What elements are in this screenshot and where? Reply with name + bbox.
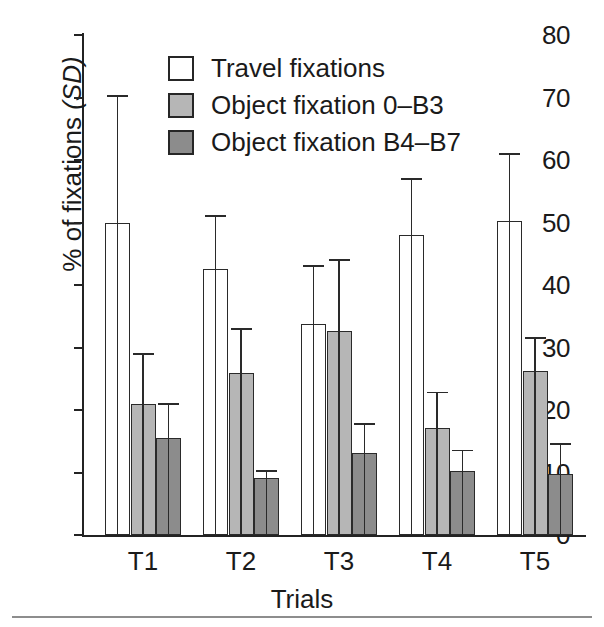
legend-item-object-fixation-b4-b7: Object fixation B4–B7 [168,125,461,159]
error-cap-t2-series2 [231,328,252,330]
error-cap-t2-series3 [256,470,277,472]
error-bar-t5-series3 [560,444,562,535]
y-axis-tick-label: 40 [542,272,570,298]
error-bar-t4-series3 [462,451,464,535]
x-axis-tick-label-t2: T2 [201,548,281,574]
y-axis-tick-label: 70 [542,85,570,111]
chart-legend: Travel fixations Object fixation 0–B3 Ob… [168,51,461,162]
x-axis-tick-label-t3: T3 [299,548,379,574]
y-axis-tick [74,534,83,536]
x-axis-tick-label-t4: T4 [397,548,477,574]
y-axis-tick [74,159,83,161]
error-bar-t3-series2 [338,260,340,535]
legend-item-object-fixation-0-b3: Object fixation 0–B3 [168,88,461,122]
error-bar-t1-series1 [117,96,119,535]
figure-bar-chart-fixations: % of fixations (SD) 01020304050607080 Tr… [0,0,604,627]
error-bar-t5-series2 [534,338,536,535]
x-axis-tick-label-t1: T1 [103,548,183,574]
legend-swatch-icon-dark [168,130,194,155]
y-axis-tick [74,409,83,411]
y-axis-tick [74,97,83,99]
y-axis-tick [74,34,83,36]
error-cap-t1-series1 [107,95,128,97]
error-cap-t4-series3 [452,450,473,452]
error-cap-t5-series1 [499,153,520,155]
error-cap-t2-series1 [205,215,226,217]
legend-item-travel-fixations: Travel fixations [168,51,461,85]
error-bar-t5-series1 [509,154,511,535]
error-bar-t2-series1 [215,216,217,535]
error-bar-t4-series1 [411,179,413,535]
error-cap-t4-series1 [401,178,422,180]
error-bar-t3-series3 [364,424,366,535]
y-axis-tick [74,284,83,286]
y-axis-tick [74,222,83,224]
legend-label-light: Object fixation 0–B3 [211,92,444,118]
y-axis-tick-label: 30 [542,335,570,361]
error-cap-t1-series2 [133,353,154,355]
error-cap-t3-series1 [303,265,324,267]
error-cap-t4-series2 [427,392,448,394]
y-axis-tick-label: 60 [542,147,570,173]
error-cap-t3-series3 [354,423,375,425]
legend-label-dark: Object fixation B4–B7 [211,129,461,155]
error-cap-t3-series2 [329,259,350,261]
error-cap-t1-series3 [158,403,179,405]
y-axis-tick [74,347,83,349]
legend-label-travel: Travel fixations [211,55,385,81]
error-bar-t4-series2 [436,393,438,536]
bottom-divider-rule [12,616,592,618]
y-axis-tick-label: 50 [542,210,570,236]
legend-swatch-icon-travel [168,56,194,81]
x-axis-line [82,535,586,537]
x-axis-title: Trials [0,586,604,612]
error-bar-t1-series2 [142,354,144,535]
error-bar-t2-series2 [240,329,242,535]
x-axis-tick-label-t5: T5 [495,548,575,574]
error-bar-t1-series3 [168,404,170,535]
y-axis-tick-label: 80 [542,22,570,48]
y-axis-title: % of fixations (SD) [58,34,86,294]
error-bar-t2-series3 [266,471,268,535]
error-cap-t5-series3 [550,443,571,445]
y-axis-tick [74,472,83,474]
error-cap-t5-series2 [525,337,546,339]
error-bar-t3-series1 [313,266,315,535]
legend-swatch-icon-light [168,93,194,118]
